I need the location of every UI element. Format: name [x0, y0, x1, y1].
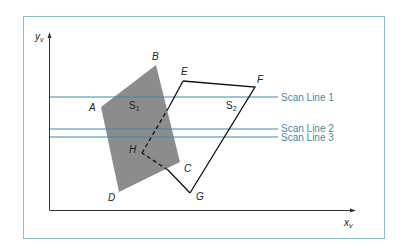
vertex-h-label: H [129, 144, 137, 155]
x-axis-arrow-icon [350, 209, 356, 213]
surface-s2-label: S2 [226, 100, 237, 112]
vertex-b-label: B [152, 51, 159, 62]
scan-line-1-label: Scan Line 1 [281, 92, 334, 103]
scan-lines: Scan Line 1 Scan Line 2 Scan Line 3 [50, 92, 335, 143]
scan-line-diagram: yv xv Scan Line 1 Scan Line 2 Scan Line … [0, 0, 404, 251]
vertex-f-label: F [257, 74, 264, 85]
vertex-a-label: A [88, 102, 96, 113]
y-axis-label: yv [34, 31, 44, 43]
y-axis-arrow-icon [48, 32, 52, 38]
x-axis-label: xv [343, 217, 353, 229]
vertex-d-label: D [108, 192, 115, 203]
vertex-g-label: G [196, 191, 204, 202]
vertex-c-label: C [184, 163, 192, 174]
s2-edge-he-visible [169, 81, 183, 107]
vertex-e-label: E [181, 66, 188, 77]
scan-line-3-label: Scan Line 3 [281, 132, 334, 143]
